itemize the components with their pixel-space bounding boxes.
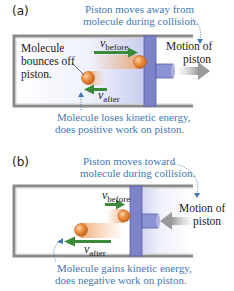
panel-b-motion-line2: piston: [193, 215, 221, 228]
panel-a-v-after-label: vafter: [98, 88, 120, 104]
panel-a-bottom-caption-line1: Molecule loses kinetic energy,: [57, 111, 191, 123]
panel-b-bottom-caption-line1: Molecule gains kinetic energy,: [57, 262, 192, 274]
panel-a-v-before-label: vbefore: [100, 36, 128, 52]
panel-b-molecule-before: [106, 209, 130, 223]
panel-a-motion-line2: piston: [183, 53, 211, 66]
panel-a-top-caption-line1: Piston moves away from: [85, 3, 194, 15]
panel-a-bottom-caption-line2: does positive work on piston.: [55, 123, 184, 135]
panel-a-note-line3: piston.: [21, 68, 52, 81]
panel-a-molecule-after: [82, 71, 107, 85]
panel-a-label: (a): [12, 4, 29, 18]
panel-b-v-before-label: vbefore: [102, 188, 130, 204]
v-subscript: before: [105, 42, 128, 52]
panel-b-motion-line1: Motion of: [179, 202, 225, 215]
panel-a-molecule-before: [90, 55, 147, 69]
v-subscript: before: [107, 194, 130, 204]
panel-b-top-dotted-arrowhead: [194, 193, 200, 198]
panel-a-top-caption-line2: molecule during collision.: [83, 15, 198, 27]
v-subscript: after: [103, 94, 119, 104]
panel-a-motion-line1: Motion of: [166, 40, 212, 53]
v-subscript: after: [89, 248, 105, 258]
panel-a-note-line1: Molecule: [21, 42, 64, 55]
panel-b-bottom-dotted-leader: [54, 240, 60, 262]
panel-a-note-line2: bounces off: [21, 55, 75, 68]
panel-b-label: (b): [12, 155, 29, 169]
panel-b-top-caption-line1: Piston moves toward: [83, 155, 175, 167]
panel-b-v-after-label: vafter: [84, 242, 106, 258]
panel-b-top-caption-line2: molecule during collision.: [80, 167, 195, 179]
panel-b-bottom-caption-line2: does negative work on piston.: [55, 274, 187, 286]
panel-b-molecule-after: [75, 223, 126, 238]
